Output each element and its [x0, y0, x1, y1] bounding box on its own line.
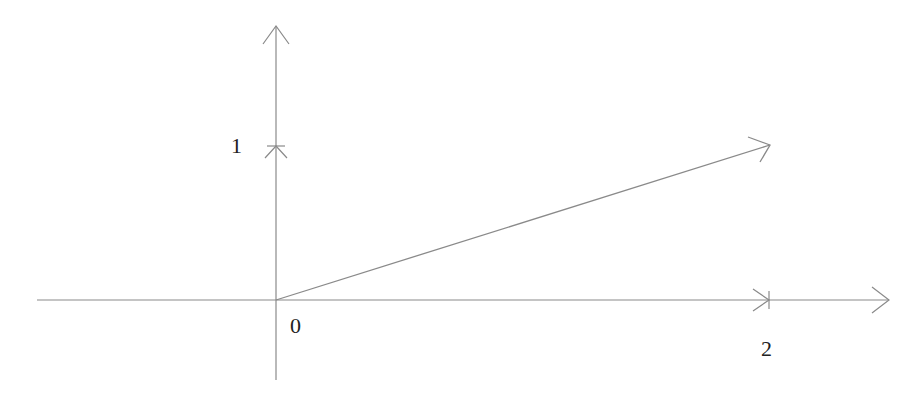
x-tick-label: 2 — [761, 336, 772, 361]
coordinate-diagram: 1 0 2 — [0, 0, 921, 393]
y-tick-label: 1 — [231, 133, 242, 158]
y-axis — [263, 26, 289, 380]
x-axis — [37, 287, 889, 313]
vector-arrow — [276, 137, 770, 300]
vector-arrowhead-icon — [748, 137, 770, 162]
origin-label: 0 — [290, 313, 301, 338]
